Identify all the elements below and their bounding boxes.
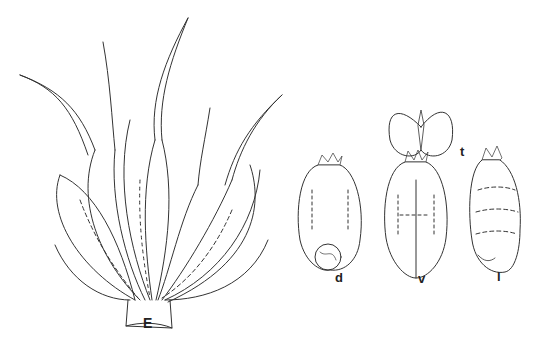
illustration (0, 0, 539, 342)
label-transverse: t (460, 145, 464, 158)
caryopsis-ventral-drawing (385, 150, 448, 278)
caryopsis-transverse-drawing (389, 110, 453, 156)
caryopsis-lateral-drawing (470, 146, 521, 272)
spikelet-drawing (20, 18, 282, 328)
botanical-plate: E d v l t (0, 0, 539, 342)
label-spikelet: E (143, 316, 152, 330)
label-ventral: v (418, 272, 425, 285)
label-lateral: l (497, 270, 501, 283)
label-dorsal: d (335, 271, 343, 284)
caryopsis-dorsal-drawing (298, 153, 361, 270)
